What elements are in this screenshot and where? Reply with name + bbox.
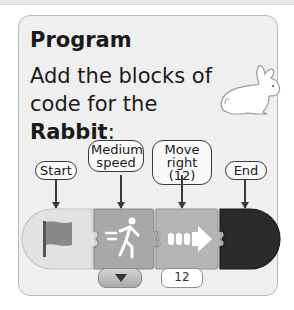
label-start-text: Start [40,163,72,178]
start-flag-block[interactable] [22,209,96,269]
top-divider [0,0,294,5]
label-speed-text: speed [91,156,141,169]
instruction-text: Add the blocks of code for the Rabbit: [30,62,230,146]
arrow-move-right [181,175,183,208]
arrow-medium-speed [120,175,122,208]
label-start: Start [35,161,77,180]
instruction-prefix: code for the [30,92,157,116]
move-right-value[interactable]: 12 [161,268,203,288]
instruction-line-2: code for the Rabbit: [30,90,230,146]
speed-block[interactable] [94,209,158,269]
card-title: Program [30,28,132,52]
end-block[interactable] [220,209,280,269]
rabbit-icon [217,60,285,118]
arrow-end [244,180,246,208]
arrow-start [55,180,57,208]
label-medium-speed: Medium speed [88,140,144,172]
instruction-line-1: Add the blocks of [30,62,230,90]
move-right-block[interactable] [156,209,222,269]
speed-dropdown[interactable] [98,268,142,288]
label-end-text: End [234,163,259,178]
code-blocks-row [20,207,282,275]
label-end: End [225,161,267,180]
